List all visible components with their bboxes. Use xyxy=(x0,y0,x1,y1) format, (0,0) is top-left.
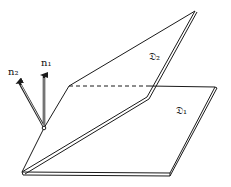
label-plane-2: 𝔇₂ xyxy=(149,51,160,62)
label-plane-1: 𝔇₁ xyxy=(176,105,187,116)
normal-vectors xyxy=(19,75,46,130)
plane-1 xyxy=(22,86,217,176)
plane-2 xyxy=(22,11,197,174)
label-normal-2: n₂ xyxy=(8,66,18,77)
origin-point xyxy=(42,126,46,130)
label-normal-1: n₁ xyxy=(41,57,51,68)
half-planes-diagram: n₁ n₂ 𝔇₂ 𝔇₁ xyxy=(0,0,231,187)
